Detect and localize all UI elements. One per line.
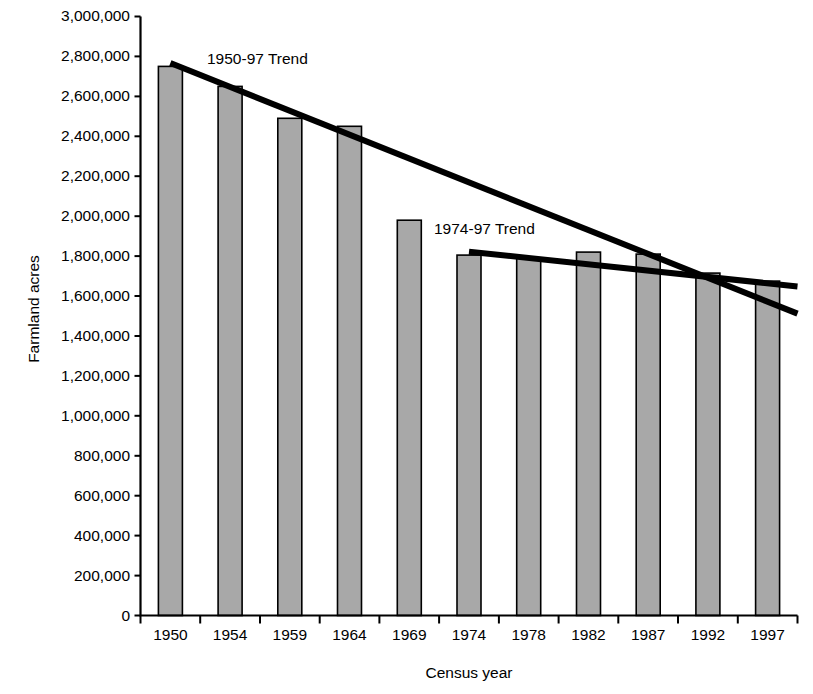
bar [756,281,780,615]
plot-area [0,0,813,694]
trend-lines-group [170,63,797,314]
bar [278,118,302,615]
bars-group [158,66,779,615]
bar [696,273,720,615]
farmland-acres-bar-chart: Farmland acres 3,000,000 2,800,000 2,600… [0,0,813,694]
bar [158,66,182,615]
bar [636,254,660,615]
bar [517,258,541,615]
trend-label-1950-97: 1950-97 Trend [207,50,308,68]
bar [338,126,362,615]
bar [397,220,421,615]
x-axis-title: Census year [140,664,798,682]
x-tick-label: 1997 [733,626,803,644]
bar [577,252,601,615]
bar [218,86,242,615]
bar [457,255,481,615]
trend-label-1974-97: 1974-97 Trend [434,220,535,238]
